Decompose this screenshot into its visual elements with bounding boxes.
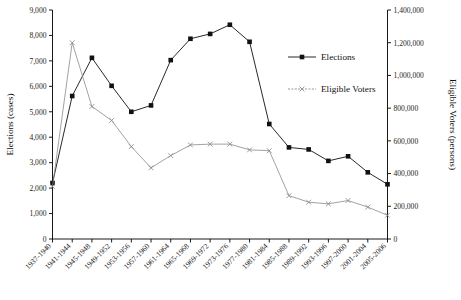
y-tick-label-left: 2,000 <box>29 184 46 193</box>
data-point-marker <box>109 84 114 89</box>
y-tick-label-right: 800,000 <box>394 104 419 113</box>
y-tick-label-left: 6,000 <box>29 82 46 91</box>
data-point-marker <box>287 145 292 150</box>
data-point-marker <box>149 103 154 108</box>
y-tick-label-left: 8,000 <box>29 31 46 40</box>
data-point-marker <box>300 55 305 60</box>
data-point-marker <box>306 147 311 152</box>
legend-item: Eligible Voters <box>288 84 376 94</box>
legend-label: Elections <box>321 52 356 62</box>
legend-label: Eligible Voters <box>321 84 376 94</box>
y-tick-label-left: 3,000 <box>29 158 46 167</box>
data-point-marker <box>385 182 390 187</box>
y-tick-label-right: 200,000 <box>394 202 419 211</box>
data-point-marker <box>208 32 213 37</box>
y-tick-label-left: 4,000 <box>29 133 46 142</box>
chart-container: 01,0002,0003,0004,0005,0006,0007,0008,00… <box>0 0 461 300</box>
data-point-marker <box>168 58 173 63</box>
data-point-marker <box>129 109 134 114</box>
y-axis-title-right: Eligible Voters (persons) <box>448 79 458 170</box>
data-point-marker <box>90 56 95 61</box>
y-tick-label-right: 400,000 <box>394 169 419 178</box>
y-axis-title-left: Elections (cases) <box>5 94 15 156</box>
y-tick-label-left: 1,000 <box>29 209 46 218</box>
data-point-marker <box>300 87 305 92</box>
data-point-marker <box>228 22 233 27</box>
data-point-marker <box>365 205 370 210</box>
y-tick-label-right: 600,000 <box>394 137 419 146</box>
legend-item: Elections <box>288 52 356 62</box>
data-point-marker <box>70 94 75 99</box>
data-point-marker <box>326 159 331 164</box>
series-eligible-voters <box>50 40 390 217</box>
y-tick-label-left: 9,000 <box>29 6 46 15</box>
data-point-marker <box>247 40 252 45</box>
series-elections <box>50 22 390 186</box>
data-point-marker <box>188 36 193 41</box>
line-chart: 01,0002,0003,0004,0005,0006,0007,0008,00… <box>0 0 461 300</box>
data-point-marker <box>109 118 114 123</box>
y-tick-label-right: 0 <box>394 235 398 244</box>
data-point-marker <box>267 122 272 127</box>
data-point-marker <box>129 144 134 149</box>
y-tick-label-left: 5,000 <box>29 108 46 117</box>
series-line <box>53 43 388 216</box>
data-point-marker <box>149 165 154 170</box>
data-point-marker <box>90 104 95 109</box>
series-line <box>53 25 388 185</box>
data-point-marker <box>287 193 292 198</box>
data-point-marker <box>168 153 173 158</box>
y-tick-label-right: 1,200,000 <box>394 39 425 48</box>
y-tick-label-right: 1,400,000 <box>394 6 425 15</box>
y-tick-label-left: 7,000 <box>29 57 46 66</box>
data-point-marker <box>346 154 351 159</box>
data-point-marker <box>365 170 370 175</box>
y-tick-label-right: 1,000,000 <box>394 71 425 80</box>
